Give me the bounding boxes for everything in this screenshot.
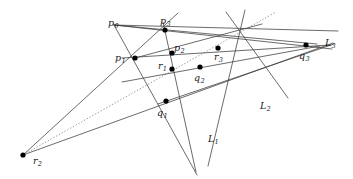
label-base: r bbox=[214, 51, 219, 62]
point-label-r1: r1 bbox=[158, 61, 167, 71]
point-label-r3: r3 bbox=[214, 52, 223, 62]
figure-canvas bbox=[0, 0, 353, 179]
label-subscript: 1 bbox=[163, 65, 167, 73]
label-subscript: 1 bbox=[121, 57, 125, 65]
label-base: r bbox=[158, 60, 163, 71]
label-base: L bbox=[208, 133, 214, 144]
point-r1 bbox=[169, 66, 174, 71]
point-label-q3: q3 bbox=[299, 51, 309, 61]
point-label-p1: p1 bbox=[115, 53, 125, 63]
label-subscript: 2 bbox=[200, 77, 204, 85]
label-subscript: 0 bbox=[114, 22, 118, 30]
point-q3 bbox=[303, 42, 308, 47]
point-label-q1: q1 bbox=[157, 108, 167, 118]
point-label-r2: r2 bbox=[33, 156, 42, 166]
line-L2-diagonal bbox=[226, 12, 288, 98]
label-subscript: 3 bbox=[166, 20, 170, 28]
label-base: L bbox=[325, 37, 331, 48]
label-subscript: 1 bbox=[215, 138, 219, 146]
label-subscript: 2 bbox=[267, 105, 271, 113]
point-r2 bbox=[20, 152, 25, 157]
label-subscript: 1 bbox=[163, 112, 167, 120]
point-label-p3: p3 bbox=[160, 16, 170, 26]
point-label-p2: p2 bbox=[174, 43, 184, 53]
label-subscript: 3 bbox=[219, 56, 223, 64]
label-base: L bbox=[260, 100, 266, 111]
line-p0-through-p3-to-q3 bbox=[114, 25, 332, 49]
point-q2 bbox=[197, 64, 202, 69]
label-subscript: 2 bbox=[180, 47, 184, 55]
line-r2-to-p3-ray bbox=[23, 13, 178, 155]
label-subscript: 3 bbox=[305, 55, 309, 63]
line-label-L1: L1 bbox=[208, 134, 219, 144]
point-q1 bbox=[163, 98, 168, 103]
line-label-L2: L2 bbox=[260, 101, 271, 111]
point-p1 bbox=[132, 55, 137, 60]
geometry-figure: p0p1p2p3r1r2r3q1q2q3L1L2L3 bbox=[0, 0, 353, 179]
label-base: r bbox=[33, 155, 38, 166]
point-r3 bbox=[215, 45, 220, 50]
point-p3 bbox=[162, 27, 167, 32]
point-label-q2: q2 bbox=[194, 73, 204, 83]
point-label-p0: p0 bbox=[108, 18, 118, 28]
line-label-L3: L3 bbox=[325, 38, 336, 48]
label-subscript: 2 bbox=[38, 160, 42, 168]
label-subscript: 3 bbox=[332, 42, 336, 50]
line-r2-dotted-to-topright bbox=[23, 12, 276, 155]
